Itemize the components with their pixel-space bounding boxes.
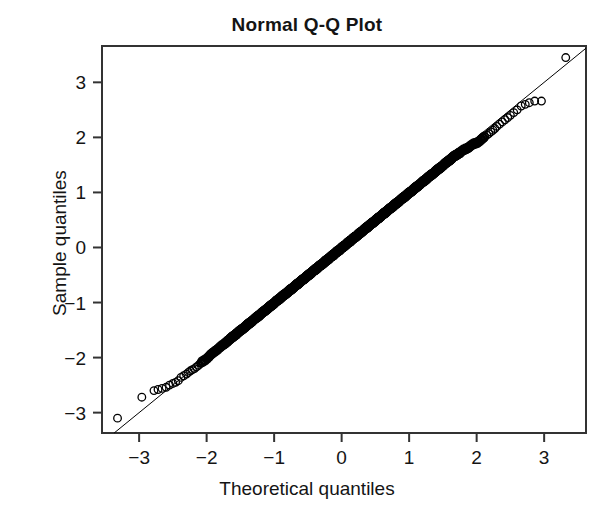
plot-canvas: −3−2−10123 3210−1−2−3 — [0, 0, 614, 520]
qq-plot-figure: Normal Q-Q Plot Sample quantiles Theoret… — [0, 0, 614, 520]
x-tick-label: 2 — [471, 447, 482, 468]
x-tick-label: −2 — [196, 447, 218, 468]
x-axis-ticks: −3−2−10123 — [128, 433, 549, 468]
data-point — [114, 414, 122, 422]
x-tick-label: −1 — [263, 447, 285, 468]
y-tick-label: −2 — [64, 348, 86, 369]
y-tick-label: 0 — [75, 237, 86, 258]
y-tick-label: −1 — [64, 293, 86, 314]
x-tick-label: −3 — [128, 447, 150, 468]
y-tick-label: 1 — [75, 182, 86, 203]
y-axis-ticks: 3210−1−2−3 — [64, 72, 102, 423]
data-point — [562, 54, 570, 62]
y-tick-label: 3 — [75, 72, 86, 93]
y-tick-label: 2 — [75, 127, 86, 148]
data-point — [138, 393, 146, 401]
x-tick-label: 3 — [539, 447, 550, 468]
scatter-points — [114, 54, 570, 422]
x-tick-label: 1 — [404, 447, 415, 468]
y-tick-label: −3 — [64, 403, 86, 424]
x-tick-label: 0 — [336, 447, 347, 468]
